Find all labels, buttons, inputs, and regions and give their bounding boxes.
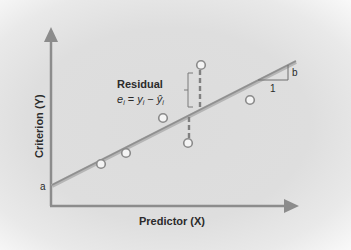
data-point [246,96,255,105]
data-point [97,160,106,169]
residual-bracket [184,73,193,107]
residual-lines [189,70,200,139]
x-axis [50,199,299,213]
intercept-label: a [40,181,46,192]
x-axis-label: Predictor (X) [139,215,205,227]
data-point [197,61,206,70]
residual-title: Residual [117,78,163,90]
data-point [159,114,168,123]
slope-run-label: 1 [270,83,276,94]
slope-label: b [292,67,298,78]
data-point [184,139,193,148]
residual-formula: ei = yi − ŷi [117,93,164,106]
data-point [122,149,131,158]
y-axis-label: Criterion (Y) [33,94,45,158]
diagram-canvas: Residual ei = yi − ŷi b 1 a Predictor (X… [0,0,351,250]
y-axis-arrow-icon [44,27,58,42]
regression-diagram: Residual ei = yi − ŷi b 1 a Predictor (X… [0,0,351,250]
x-axis-arrow-icon [284,199,299,213]
y-axis [44,27,58,206]
